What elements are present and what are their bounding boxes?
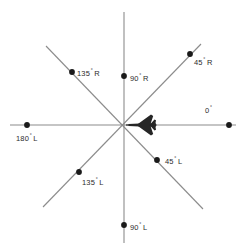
bearing-label-135R: 135°R <box>77 68 100 77</box>
degree-symbol-45R: ° <box>203 56 205 62</box>
bearing-dot-90L[interactable] <box>121 222 127 228</box>
bearing-number-45L: 45 <box>165 157 174 166</box>
bearing-label-90L: 90°L <box>130 222 147 231</box>
bearing-side-45L: L <box>178 157 182 166</box>
degree-symbol-0: ° <box>210 104 212 110</box>
bearing-dot-0[interactable] <box>226 122 232 128</box>
bearing-dot-45R[interactable] <box>187 51 193 57</box>
bearing-dot-180L[interactable] <box>24 122 30 128</box>
bearing-side-135R: R <box>94 69 100 78</box>
degree-symbol-90L: ° <box>139 221 141 227</box>
bearing-dot-90R[interactable] <box>121 73 127 79</box>
bearing-number-135L: 135 <box>82 178 95 187</box>
bearing-dot-135R[interactable] <box>69 69 75 75</box>
bearing-label-45L: 45°L <box>165 156 182 165</box>
bearing-number-0: 0 <box>205 106 209 115</box>
bearing-number-90L: 90 <box>130 223 139 232</box>
bearing-number-135R: 135 <box>77 69 90 78</box>
degree-symbol-180L: ° <box>30 132 32 138</box>
degree-symbol-90R: ° <box>139 72 141 78</box>
bearing-number-45R: 45 <box>194 58 203 67</box>
bearing-number-90R: 90 <box>130 74 139 83</box>
degree-symbol-135L: ° <box>96 176 98 182</box>
bearing-label-45R: 45°R <box>194 57 213 66</box>
bearing-side-45R: R <box>207 58 213 67</box>
bearing-label-90R: 90°R <box>130 73 149 82</box>
bearing-side-180L: L <box>33 134 37 143</box>
bearing-label-180L: 180°L <box>16 133 38 142</box>
bearing-dot-45L[interactable] <box>154 157 160 163</box>
bearing-number-180L: 180 <box>16 134 29 143</box>
degree-symbol-135R: ° <box>91 67 93 73</box>
diagram-canvas <box>0 0 242 251</box>
bearing-dot-135L[interactable] <box>76 169 82 175</box>
bearing-side-135L: L <box>99 178 103 187</box>
bearing-side-90L: L <box>143 223 147 232</box>
bearing-side-90R: R <box>143 74 149 83</box>
bearing-label-135L: 135°L <box>82 177 104 186</box>
bearing-label-0: 0° <box>205 105 214 114</box>
aircraft-icon <box>126 115 156 136</box>
bearing-diagram: 0° 45°R 90°R 135°R 180°L 135°L 90°L 45°L <box>0 0 242 251</box>
degree-symbol-45L: ° <box>174 155 176 161</box>
